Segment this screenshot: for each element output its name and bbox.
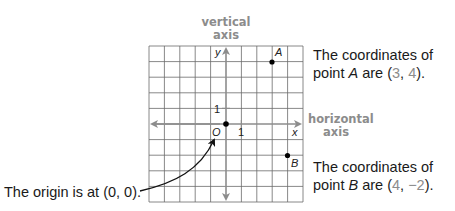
horizontal-axis-caption-line2: axis — [308, 126, 364, 139]
origin-dot — [223, 121, 229, 127]
point-name: B — [348, 177, 358, 193]
caption-text: , — [400, 65, 408, 81]
point-b-caption-line1: The coordinates of — [313, 158, 434, 176]
point-name: A — [348, 65, 358, 81]
point-b-caption: The coordinates of point B are (4, −2). — [313, 158, 434, 194]
origin-caption: The origin is at (0, 0). — [4, 183, 141, 201]
point-a-caption-line1: The coordinates of — [313, 46, 433, 64]
caption-text: point — [313, 65, 348, 81]
x-coordinate: 4 — [392, 177, 400, 193]
point-a-dot — [269, 59, 274, 64]
caption-text: ). — [416, 65, 425, 81]
point-b-dot — [285, 153, 290, 158]
horizontal-axis-caption: horizontal axis — [308, 113, 364, 139]
vertical-axis-caption-line2: axis — [196, 29, 256, 42]
y-coordinate: 4 — [408, 65, 416, 81]
caption-text: are ( — [358, 177, 392, 193]
caption-text: ). — [425, 177, 434, 193]
point-a-label: A — [274, 46, 282, 58]
caption-text: point — [313, 177, 348, 193]
y-coordinate: −2 — [408, 177, 425, 193]
vertical-axis-caption: vertical axis — [196, 16, 256, 42]
y-axis-label: y — [214, 46, 222, 58]
origin-label: O — [212, 126, 221, 138]
caption-text: are ( — [358, 65, 392, 81]
point-a-caption-line2: point A are (3, 4). — [313, 64, 433, 82]
caption-text: , — [400, 177, 408, 193]
x-coordinate: 3 — [392, 65, 400, 81]
point-b-label: B — [291, 157, 298, 169]
point-a-caption: The coordinates of point A are (3, 4). — [313, 46, 433, 82]
point-b-caption-line2: point B are (4, −2). — [313, 176, 434, 194]
y-tick-label: 1 — [214, 103, 220, 115]
x-axis-label: x — [291, 126, 298, 138]
origin-pointer-arrow — [140, 140, 214, 191]
x-tick-label: 1 — [238, 126, 244, 138]
